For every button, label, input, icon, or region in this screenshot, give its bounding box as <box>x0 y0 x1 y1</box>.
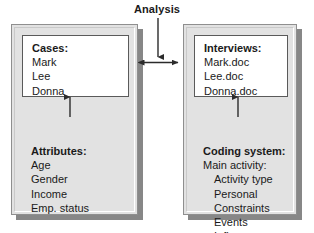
coding-item-1: Activity type <box>203 172 286 186</box>
coding-item-4: Events <box>203 215 286 229</box>
attributes-list: Attributes: Age Gender Income Emp. statu… <box>31 144 89 215</box>
analysis-diagram: Analysis Cases: Mark Lee Donna Attribute… <box>0 0 314 233</box>
interviews-item-3: Donna.doc <box>204 84 261 98</box>
page-title: Analysis <box>0 3 314 16</box>
interviews-item-2: Lee.doc <box>204 69 261 83</box>
coding-system-heading: Coding system: <box>203 144 286 158</box>
cases-item-3: Donna <box>32 84 68 98</box>
coding-system-list: Coding system: Main activity: Activity t… <box>203 144 286 233</box>
interviews-item-1: Mark.doc <box>204 55 261 69</box>
cases-item-2: Lee <box>32 69 68 83</box>
coding-item-5: Influences <box>203 229 286 233</box>
interviews-box: Interviews: Mark.doc Lee.doc Donna.doc <box>194 35 288 97</box>
cases-heading: Cases: <box>32 41 68 55</box>
interviews-box-text: Interviews: Mark.doc Lee.doc Donna.doc <box>204 41 261 98</box>
interviews-panel: Interviews: Mark.doc Lee.doc Donna.doc C… <box>183 24 297 215</box>
attributes-heading: Attributes: <box>31 144 89 158</box>
coding-item-2: Personal <box>203 187 286 201</box>
cases-item-1: Mark <box>32 55 68 69</box>
attributes-item-1: Age <box>31 158 89 172</box>
cases-panel: Cases: Mark Lee Donna Attributes: Age Ge… <box>11 24 138 215</box>
attributes-item-2: Gender <box>31 172 89 186</box>
main-activity-subheading: Main activity: <box>203 158 286 172</box>
attributes-item-3: Income <box>31 187 89 201</box>
cases-box-text: Cases: Mark Lee Donna <box>32 41 68 98</box>
coding-item-3: Constraints <box>203 201 286 215</box>
attributes-item-4: Emp. status <box>31 201 89 215</box>
interviews-heading: Interviews: <box>204 41 261 55</box>
cases-box: Cases: Mark Lee Donna <box>22 35 129 97</box>
